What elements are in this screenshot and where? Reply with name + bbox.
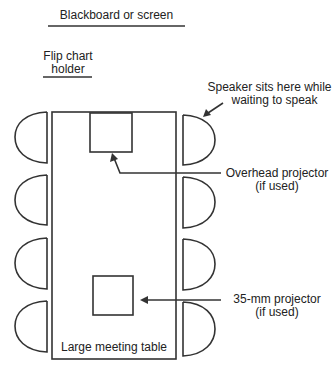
overhead-arrowhead-icon [110,153,118,162]
overhead-label-line1: Overhead projector [220,166,334,180]
chair-left-1 [15,112,47,163]
overhead-label-line2: (if used) [220,179,334,193]
blackboard-label: Blackboard or screen [48,8,185,22]
chair-left-2 [15,175,47,225]
flipchart-label-line2: holder [40,62,96,76]
slide-projector [93,276,133,315]
overhead-projector [90,113,132,152]
slide-label-line1: 35-mm projector [220,292,334,306]
chair-left-4 [15,301,47,352]
chair-right-4 [183,302,215,356]
speaker-label-line2: waiting to speak [215,93,334,107]
chair-right-3 [183,239,215,290]
chair-right-1 [183,115,215,165]
speaker-arrowhead-icon [203,109,211,117]
chair-left-3 [15,238,47,289]
speaker-label-line1: Speaker sits here while [205,80,334,94]
slide-label-line2: (if used) [220,305,334,319]
chair-right-2 [183,177,215,228]
slide-arrowhead-icon [140,296,148,304]
table-label: Large meeting table [52,340,176,354]
overhead-arrow-line [114,158,221,173]
flipchart-label-line1: Flip chart [40,49,96,63]
meeting-table [52,112,176,359]
